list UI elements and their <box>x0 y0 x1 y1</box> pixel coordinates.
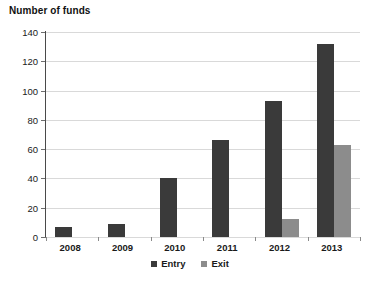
chart-container: Number of funds 020406080100120140 20082… <box>0 0 380 281</box>
chart-title: Number of funds <box>9 5 91 16</box>
x-axis-tick <box>255 237 256 241</box>
y-axis-label: 80 <box>6 114 38 125</box>
bar-entry-2012 <box>265 101 282 237</box>
legend-item-entry[interactable]: Entry <box>151 259 185 269</box>
x-axis-tick <box>203 237 204 241</box>
gridline <box>46 91 360 92</box>
x-axis-tick <box>98 237 99 241</box>
legend-item-exit[interactable]: Exit <box>201 259 228 269</box>
gridline <box>46 178 360 179</box>
x-axis-tick <box>46 237 47 241</box>
chart-legend: EntryExit <box>0 259 380 269</box>
x-axis-label-2011: 2011 <box>217 242 238 253</box>
y-axis-label: 60 <box>6 144 38 155</box>
y-axis-label: 140 <box>6 27 38 38</box>
bar-entry-2011 <box>212 140 229 237</box>
gridline <box>46 208 360 209</box>
x-axis-label-2010: 2010 <box>164 242 185 253</box>
legend-swatch-icon <box>151 261 157 267</box>
plot-area <box>46 32 360 237</box>
y-axis-tick <box>41 208 45 209</box>
x-axis-tick <box>308 237 309 241</box>
y-axis-tick <box>41 32 45 33</box>
y-axis-tick <box>41 149 45 150</box>
y-axis-tick <box>41 91 45 92</box>
x-axis-label-2008: 2008 <box>60 242 81 253</box>
y-axis-tick <box>41 237 45 238</box>
y-axis-label: 120 <box>6 56 38 67</box>
legend-swatch-icon <box>201 261 207 267</box>
x-axis-label-2009: 2009 <box>112 242 133 253</box>
y-axis-tick <box>41 61 45 62</box>
legend-label: Exit <box>211 259 228 269</box>
gridline <box>46 120 360 121</box>
bar-entry-2013 <box>317 44 334 237</box>
bar-entry-2010 <box>160 178 177 237</box>
x-axis-tick <box>151 237 152 241</box>
bar-entry-2009 <box>108 224 125 237</box>
bar-exit-2013 <box>334 145 351 237</box>
x-axis-label-2013: 2013 <box>321 242 342 253</box>
y-axis-label: 100 <box>6 85 38 96</box>
x-axis-tick <box>360 237 361 241</box>
gridline <box>46 32 360 33</box>
legend-label: Entry <box>161 259 185 269</box>
y-axis-label: 0 <box>6 232 38 243</box>
y-axis-tick <box>41 120 45 121</box>
gridline <box>46 61 360 62</box>
bar-exit-2012 <box>282 219 299 237</box>
y-axis-label: 40 <box>6 173 38 184</box>
y-axis-label: 20 <box>6 202 38 213</box>
bar-entry-2008 <box>55 227 72 237</box>
x-axis-label-2012: 2012 <box>269 242 290 253</box>
gridline <box>46 149 360 150</box>
y-axis-tick <box>41 178 45 179</box>
y-axis-tick-labels: 020406080100120140 <box>2 32 38 237</box>
